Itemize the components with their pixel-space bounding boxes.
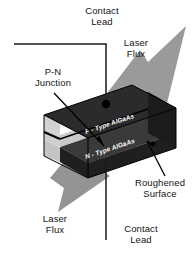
label-laser-flux-top: Laser Flux (115, 38, 157, 59)
label-contact-lead-bottom: Contact Lead (113, 224, 169, 245)
label-pn-junction: P-N Junction (22, 67, 84, 88)
laser-diode-slab: P - Type AlGaAs N - Type AlGaAs (44, 85, 176, 178)
label-laser-flux-bottom: Laser Flux (34, 214, 76, 235)
label-roughened-surface: Roughened Surface (126, 178, 194, 199)
label-contact-lead-top: Contact Lead (72, 6, 132, 27)
figure-canvas: P - Type AlGaAs N - Type AlGaAs Contact … (0, 0, 196, 264)
contact-dot (102, 100, 110, 108)
